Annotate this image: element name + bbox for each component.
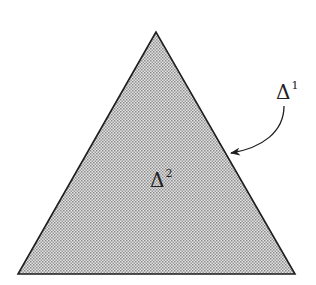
diagram-canvas <box>0 0 316 285</box>
delta-symbol: Δ <box>150 168 164 192</box>
superscript-1: 1 <box>291 79 298 92</box>
interior-label: Δ2 <box>150 170 172 190</box>
boundary-label: Δ1 <box>276 82 298 102</box>
shaded-triangle <box>18 32 295 274</box>
delta-symbol: Δ <box>276 80 290 104</box>
superscript-2: 2 <box>165 167 172 180</box>
pointer-arrow <box>231 106 284 153</box>
